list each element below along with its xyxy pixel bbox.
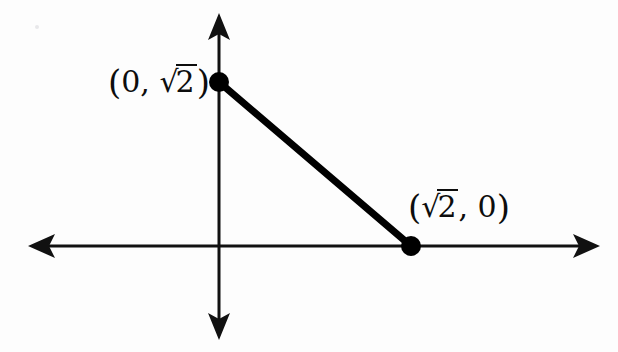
square-root-icon: √2 [421, 187, 458, 222]
label-first-value: 0, [121, 64, 150, 99]
label-open-paren: ( [108, 62, 121, 102]
point-label-x-intercept: (√2, 0) [408, 187, 510, 224]
scan-speck [35, 25, 39, 29]
radicand-value: 2 [176, 64, 197, 97]
radicand-value: 2 [437, 189, 458, 222]
point-label-y-intercept: (0, √2) [108, 62, 210, 99]
label-open-paren: ( [408, 187, 421, 227]
coordinate-plane-svg [0, 0, 618, 352]
intercept-segment [219, 82, 411, 246]
label-second-value: , 0 [458, 189, 496, 224]
label-close-paren: ) [497, 187, 510, 227]
point-marker-x-intercept [401, 236, 421, 256]
coordinate-plane-figure: (0, √2) (√2, 0) [0, 0, 618, 352]
point-marker-y-intercept [209, 72, 229, 92]
square-root-icon: √2 [159, 62, 196, 97]
label-close-paren: ) [197, 62, 210, 102]
